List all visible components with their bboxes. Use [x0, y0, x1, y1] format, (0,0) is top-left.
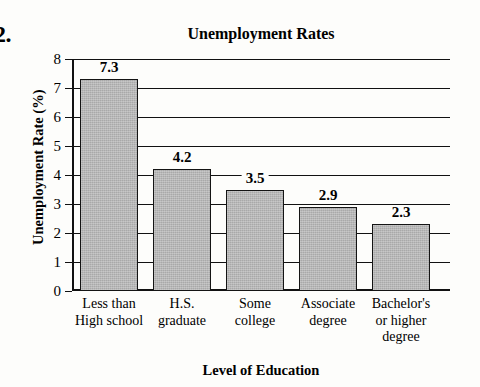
bar-value-label: 4.2: [169, 150, 196, 165]
gridline: [72, 59, 450, 60]
x-axis-category-label: Associate degree: [292, 296, 364, 329]
x-axis-category-label: Bachelor's or higher degree: [365, 296, 437, 346]
y-axis-tick: [65, 117, 72, 118]
x-axis-category-label: Less than High school: [73, 296, 145, 329]
y-axis-tick: [65, 175, 72, 176]
plot-area: 012345678 7.34.23.52.92.3: [72, 59, 450, 291]
x-axis-category-label: Some college: [219, 296, 291, 329]
y-axis-tick-label: 2: [54, 226, 62, 241]
y-axis-tick-label: 7: [54, 81, 62, 96]
y-axis-tick: [65, 88, 72, 89]
bar: [153, 169, 211, 291]
y-axis-tick: [65, 262, 72, 263]
chart-title: Unemployment Rates: [72, 26, 450, 42]
bar-value-label: 2.3: [388, 205, 415, 220]
question-number: 2.: [0, 22, 11, 46]
bar-value-label: 7.3: [96, 60, 123, 75]
y-axis-tick-label: 8: [54, 52, 62, 67]
bar: [80, 79, 138, 291]
x-axis-category-label: H.S. graduate: [146, 296, 218, 329]
y-axis-tick-label: 1: [54, 255, 62, 270]
y-axis-tick: [65, 204, 72, 205]
bar: [226, 190, 284, 292]
y-axis-tick-label: 4: [54, 168, 62, 183]
y-axis-tick-label: 5: [54, 139, 62, 154]
bar: [299, 207, 357, 291]
x-axis-title: Level of Education: [72, 363, 450, 378]
y-axis-tick: [65, 146, 72, 147]
bar: [372, 224, 430, 291]
y-axis-tick: [65, 233, 72, 234]
y-axis-tick-label: 6: [54, 110, 62, 125]
y-axis-tick-label: 0: [54, 284, 62, 299]
y-axis-tick: [65, 59, 72, 60]
bar-value-label: 3.5: [242, 171, 269, 186]
y-axis-line: [72, 59, 74, 291]
bar-value-label: 2.9: [315, 188, 342, 203]
y-axis-tick-label: 3: [54, 197, 62, 212]
y-axis-tick: [65, 291, 72, 292]
y-axis-title: Unemployment Rate (%): [31, 67, 46, 267]
unemployment-rates-figure: 2. Unemployment Rates Unemployment Rate …: [0, 0, 480, 387]
